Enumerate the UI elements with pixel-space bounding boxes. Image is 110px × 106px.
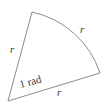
sector-shape xyxy=(0,0,110,106)
arc-line xyxy=(32,12,100,73)
arc-label: r xyxy=(80,24,84,35)
radian-sector-diagram: r r r 1 rad xyxy=(0,0,110,106)
radius-bottom-label: r xyxy=(57,87,61,98)
radius-left-label: r xyxy=(10,44,14,55)
